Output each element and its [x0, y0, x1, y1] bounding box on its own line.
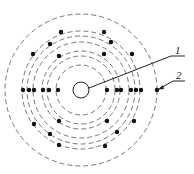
electron-dot	[129, 88, 133, 92]
electron-dot	[32, 122, 36, 126]
electron-dot	[103, 144, 107, 148]
electron-dot	[56, 88, 60, 92]
electron-dot	[119, 88, 123, 92]
electron-dot	[48, 42, 52, 46]
label-2-electron: 2	[176, 70, 182, 81]
electron-dot	[59, 30, 63, 34]
electron-dot	[57, 119, 61, 123]
electron-dot	[41, 88, 45, 92]
electron-dot	[132, 119, 136, 123]
electrons	[21, 30, 159, 148]
electron-dot	[102, 30, 106, 34]
electron-dot	[130, 52, 134, 56]
electron-dot	[31, 52, 35, 56]
atom-diagram	[0, 0, 194, 174]
label-1-nucleus: 1	[175, 45, 181, 56]
electron-dot	[115, 88, 119, 92]
arrowhead-2	[158, 85, 164, 90]
nucleus	[73, 82, 89, 98]
electron-dot	[27, 88, 31, 92]
electron-dot	[155, 88, 159, 92]
electron-dot	[57, 143, 61, 147]
electron-dot	[115, 130, 119, 134]
electron-dot	[105, 88, 109, 92]
electron-dot	[109, 40, 113, 44]
electron-dot	[134, 88, 138, 92]
electron-dot	[47, 88, 51, 92]
electron-dot	[32, 88, 36, 92]
electron-dot	[48, 132, 52, 136]
electron-dot	[102, 52, 106, 56]
leader-line-1	[89, 56, 185, 88]
electron-dot	[139, 88, 143, 92]
electron-dot	[57, 54, 61, 58]
electron-dot	[105, 119, 109, 123]
electron-dot	[21, 88, 25, 92]
